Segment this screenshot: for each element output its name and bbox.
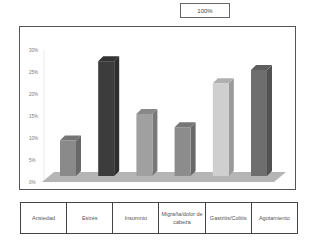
table-row: Ansiedad Estrés Insomnio Migraña/dolor d… bbox=[21, 203, 298, 234]
table-cell: Ansiedad bbox=[21, 203, 67, 234]
total-percentage-label: 100% bbox=[197, 8, 212, 14]
y-tick-label: 0% bbox=[29, 180, 36, 185]
bar-ansiedad bbox=[60, 135, 81, 176]
y-tick-label: 20% bbox=[29, 92, 38, 97]
total-percentage-box: 100% bbox=[180, 3, 230, 18]
table-cell: Migraña/dolor de cabeza bbox=[159, 203, 205, 234]
table-cell: Gastritis/Colitis bbox=[205, 203, 251, 234]
bar-migraña-dolor-de-cabeza bbox=[175, 122, 196, 176]
table-cell: Insomnio bbox=[113, 203, 159, 234]
y-tick-label: 10% bbox=[29, 136, 38, 141]
table-cell: Agotamiento bbox=[251, 203, 297, 234]
bar-insomnio bbox=[136, 109, 157, 176]
y-tick-label: 15% bbox=[29, 114, 38, 119]
category-table: Ansiedad Estrés Insomnio Migraña/dolor d… bbox=[20, 202, 298, 234]
y-tick-label: 30% bbox=[29, 48, 38, 53]
chart-floor bbox=[42, 172, 286, 182]
bar-agotamiento bbox=[251, 65, 272, 176]
y-tick-label: 5% bbox=[29, 158, 36, 163]
y-tick-label: 25% bbox=[29, 70, 38, 75]
table-cell: Estrés bbox=[67, 203, 113, 234]
bar-gastritis-colitis bbox=[213, 78, 234, 176]
chart-frame: 0%5%10%15%20%25%30% bbox=[19, 26, 296, 190]
bar-estrés bbox=[98, 56, 119, 176]
bars-group bbox=[60, 56, 272, 176]
y-axis: 0%5%10%15%20%25%30% bbox=[29, 48, 44, 185]
bar-chart: 0%5%10%15%20%25%30% bbox=[20, 27, 297, 191]
